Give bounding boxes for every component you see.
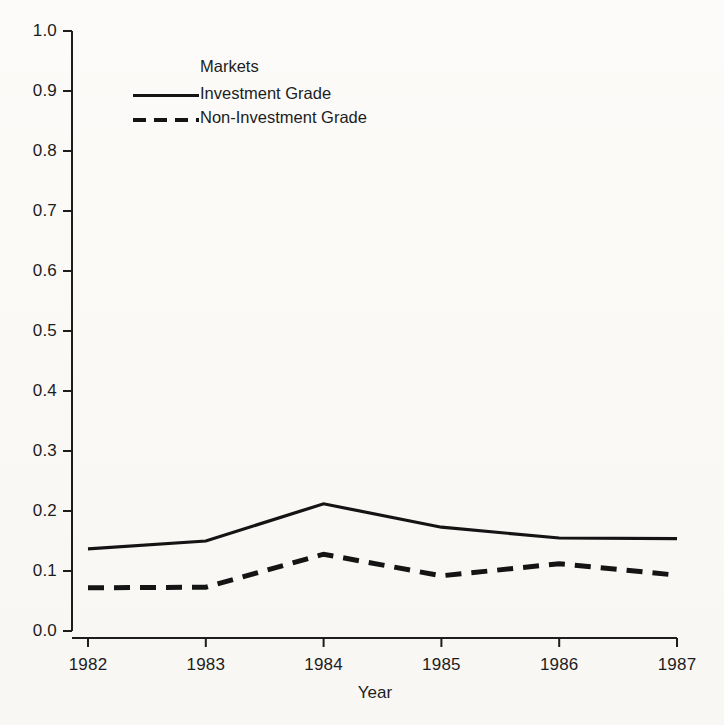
y-axis-tick-label: 0.3 [11, 441, 57, 461]
y-axis-ticks [63, 31, 72, 631]
legend: Markets Investment Grade Non-Investment … [130, 57, 450, 137]
y-axis-tick-label: 0.1 [11, 561, 57, 581]
y-axis-tick-label: 0.6 [11, 261, 57, 281]
legend-title: Markets [200, 57, 259, 76]
y-axis-tick-label: 0.4 [11, 381, 57, 401]
y-axis-tick-label: 0.9 [11, 81, 57, 101]
x-axis-tick-label: 1983 [171, 655, 241, 675]
y-axis-tick-label: 0.8 [11, 141, 57, 161]
x-axis-tick-label: 1986 [524, 655, 594, 675]
y-axis-tick-label: 1.0 [11, 21, 57, 41]
x-axis-title: Year [295, 683, 455, 703]
y-axis-tick-label: 0.0 [11, 621, 57, 641]
y-axis-tick-label: 0.2 [11, 501, 57, 521]
legend-key-solid-line-icon [133, 94, 199, 97]
legend-key-dashed-line-icon [133, 118, 199, 122]
legend-entry-non-investment-grade: Non-Investment Grade [130, 108, 450, 132]
x-axis-tick-label: 1982 [53, 655, 123, 675]
y-axis-tick-label: 0.7 [11, 201, 57, 221]
x-axis-ticks [88, 638, 677, 647]
legend-label-investment-grade: Investment Grade [200, 84, 331, 103]
series-line-non-investment-grade [88, 554, 677, 588]
legend-label-non-investment-grade: Non-Investment Grade [200, 108, 367, 127]
x-axis-tick-label: 1984 [289, 655, 359, 675]
x-axis-tick-label: 1985 [406, 655, 476, 675]
series-line-investment-grade [88, 504, 677, 549]
legend-entry-investment-grade: Investment Grade [130, 84, 450, 108]
data-series-group [88, 504, 677, 588]
y-axis-tick-label: 0.5 [11, 321, 57, 341]
x-axis-tick-label: 1987 [642, 655, 712, 675]
chart-figure: 0.00.10.20.30.40.50.60.70.80.91.0 198219… [0, 0, 724, 725]
